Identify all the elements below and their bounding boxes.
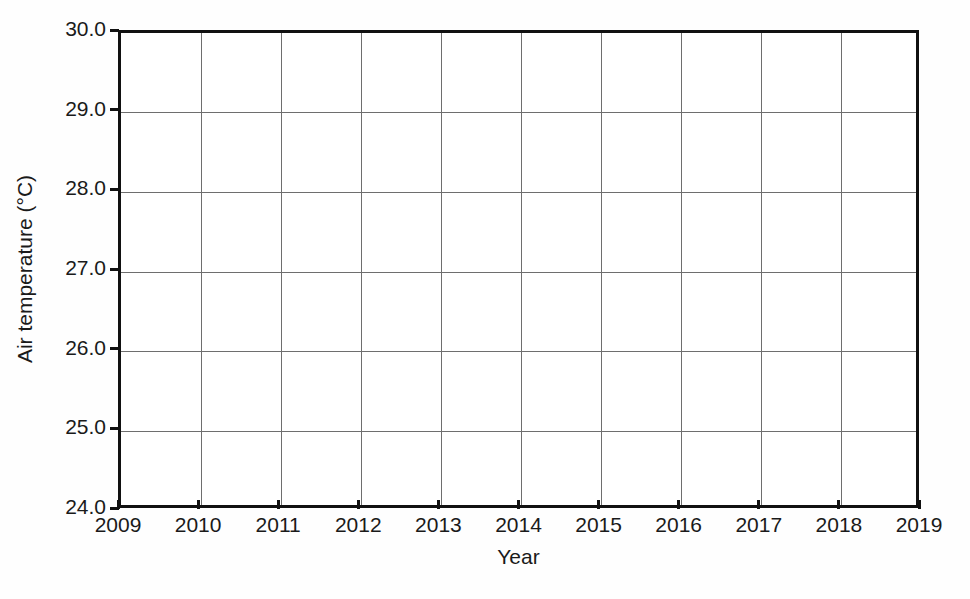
y-axis-tick <box>110 268 119 271</box>
y-axis-tick-label: 29.0 <box>40 97 106 121</box>
x-axis-tick-label: 2013 <box>393 513 483 537</box>
x-axis-tick-label: 2016 <box>634 513 724 537</box>
x-axis-tick <box>757 500 760 509</box>
gridline-horizontal <box>121 192 916 193</box>
gridline-vertical <box>681 33 682 505</box>
x-axis-tick-label: 2012 <box>313 513 403 537</box>
gridline-vertical <box>601 33 602 505</box>
x-axis-tick-label: 2018 <box>794 513 884 537</box>
gridline-vertical <box>441 33 442 505</box>
x-axis-tick <box>677 500 680 509</box>
x-axis-tick <box>357 500 360 509</box>
y-axis-tick-label: 26.0 <box>40 336 106 360</box>
gridline-horizontal <box>121 112 916 113</box>
gridline-vertical <box>761 33 762 505</box>
y-axis-tick-label: 27.0 <box>40 256 106 280</box>
y-axis-tick <box>110 188 119 191</box>
x-axis-tick-label: 2009 <box>73 513 163 537</box>
y-axis-tick <box>110 29 119 32</box>
y-axis-tick-label: 28.0 <box>40 176 106 200</box>
gridline-horizontal <box>121 351 916 352</box>
x-axis-tick-label: 2011 <box>233 513 323 537</box>
x-axis-tick <box>197 500 200 509</box>
x-axis-tick <box>517 500 520 509</box>
gridline-vertical <box>361 33 362 505</box>
x-axis-tick-label: 2017 <box>714 513 804 537</box>
y-axis-tick <box>110 427 119 430</box>
gridlines <box>121 33 916 505</box>
gridline-vertical <box>521 33 522 505</box>
y-axis-tick-label: 25.0 <box>40 415 106 439</box>
x-axis-tick-label: 2019 <box>874 513 964 537</box>
chart-figure: 24.025.026.027.028.029.030.0 20092010201… <box>0 0 970 599</box>
x-axis-tick-label: 2010 <box>153 513 243 537</box>
gridline-vertical <box>841 33 842 505</box>
x-axis-tick-label: 2015 <box>554 513 644 537</box>
x-axis-tick <box>117 500 120 509</box>
y-axis-title: Air temperature (°C) <box>10 30 40 508</box>
x-axis-title: Year <box>118 545 919 569</box>
x-axis-tick <box>918 500 921 509</box>
x-axis-tick-label: 2014 <box>474 513 564 537</box>
gridline-horizontal <box>121 431 916 432</box>
plot-area <box>118 30 919 508</box>
y-axis-tick <box>110 108 119 111</box>
y-axis-tick <box>110 347 119 350</box>
x-axis-tick <box>597 500 600 509</box>
gridline-vertical <box>281 33 282 505</box>
y-axis-tick-label: 30.0 <box>40 17 106 41</box>
gridline-horizontal <box>121 272 916 273</box>
x-axis-tick <box>437 500 440 509</box>
x-axis-tick <box>837 500 840 509</box>
gridline-vertical <box>201 33 202 505</box>
x-axis-tick <box>277 500 280 509</box>
